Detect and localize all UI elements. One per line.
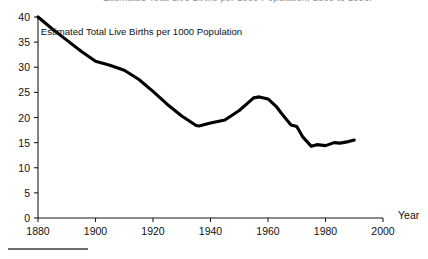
x-axis-label: Year xyxy=(398,209,420,221)
y-axis-tick-label: 30 xyxy=(18,61,30,73)
x-axis-tick-label: 1920 xyxy=(141,225,165,237)
line-chart: 0510152025303540 18801900192019401960198… xyxy=(0,0,428,259)
x-axis-tick-label: 2000 xyxy=(371,225,395,237)
figure-container: Estimated Total Live Births per 1000 Pop… xyxy=(0,0,428,259)
x-axis-tick-group: 1880190019201940196019802000 xyxy=(26,218,395,237)
y-axis-tick-label: 25 xyxy=(18,86,30,98)
y-axis-tick-label: 15 xyxy=(18,137,30,149)
x-axis-tick-label: 1900 xyxy=(84,225,108,237)
page-horizontal-rule xyxy=(8,248,88,250)
x-axis-tick-label: 1880 xyxy=(26,225,50,237)
y-axis-tick-label: 40 xyxy=(18,11,30,23)
y-axis-tick-label: 35 xyxy=(18,36,30,48)
chart-annotation-label: Estimated Total Live Births per 1000 Pop… xyxy=(41,26,242,37)
x-axis-tick-label: 1940 xyxy=(199,225,223,237)
y-axis-tick-label: 20 xyxy=(18,112,30,124)
x-axis-tick-label: 1980 xyxy=(314,225,338,237)
clipped-figure-title: Estimated Total Live Births per 1000 Pop… xyxy=(103,0,372,3)
y-axis-tick-group: 0510152025303540 xyxy=(18,11,38,224)
y-axis-tick-label: 0 xyxy=(24,212,30,224)
x-axis-tick-label: 1960 xyxy=(256,225,280,237)
y-axis-tick-label: 5 xyxy=(24,187,30,199)
y-axis-tick-label: 10 xyxy=(18,162,30,174)
